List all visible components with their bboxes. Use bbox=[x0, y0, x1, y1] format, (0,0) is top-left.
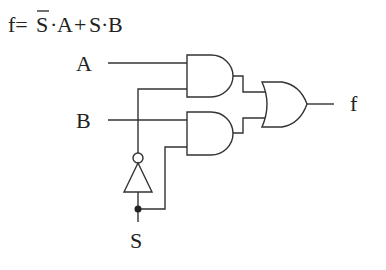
not-gate bbox=[124, 153, 152, 192]
formula: f= S · A + S · B bbox=[8, 11, 123, 37]
wire-and1-out bbox=[233, 76, 265, 92]
formula-s: S bbox=[89, 12, 101, 37]
and-gate-2 bbox=[187, 112, 233, 155]
formula-a: A bbox=[57, 12, 73, 37]
label-input-s: S bbox=[130, 228, 142, 253]
inverter-triangle bbox=[124, 163, 152, 192]
label-input-a: A bbox=[76, 51, 92, 76]
formula-b: B bbox=[108, 12, 123, 37]
formula-prefix: f= bbox=[8, 12, 28, 37]
or-gate bbox=[262, 82, 307, 127]
wire-and2-out bbox=[233, 118, 265, 133]
label-input-b: B bbox=[76, 108, 91, 133]
formula-plus: + bbox=[74, 12, 86, 37]
logic-circuit-diagram: f= S · A + S · B A B S f bbox=[0, 0, 386, 270]
wire-not-s bbox=[138, 89, 187, 153]
formula-s-bar: S bbox=[36, 12, 48, 37]
and-gate-1 bbox=[187, 55, 233, 97]
label-output-f: f bbox=[350, 91, 358, 116]
junction-dot bbox=[135, 206, 142, 213]
